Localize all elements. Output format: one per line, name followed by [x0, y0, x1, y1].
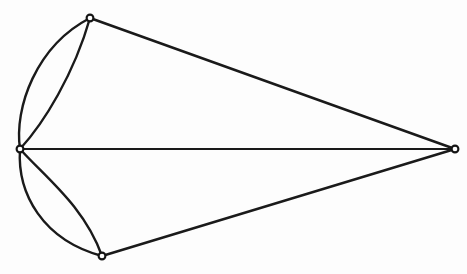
- vertex-right: [452, 146, 459, 153]
- graph-diagram-figure: [0, 0, 467, 274]
- vertex-left: [17, 146, 24, 153]
- vertex-top: [87, 15, 94, 22]
- graph-canvas: [0, 0, 467, 274]
- vertex-bottom: [99, 253, 106, 260]
- figure-background: [0, 0, 467, 274]
